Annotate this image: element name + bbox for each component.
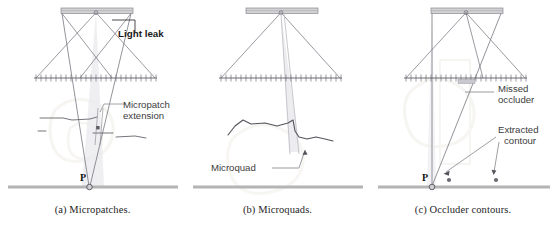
light-beam-c: [427, 13, 436, 186]
figure-container: Light leak Micropatch extension P (a) Mi…: [0, 0, 556, 229]
watermark-a: [50, 99, 113, 161]
label-light-leak: Light leak: [118, 28, 164, 39]
point-label-p-a: P: [80, 172, 86, 183]
missed-occluder-marker-c: [458, 80, 475, 84]
label-micropatch-extension-line1: Micropatch: [123, 99, 170, 110]
label-missed-occluder-line1: Missed: [498, 83, 528, 94]
label-missed-occluder-line2: occluder: [498, 94, 534, 105]
label-microquad: Microquad: [211, 162, 256, 173]
panel-micropatches: Light leak Micropatch extension P (a) Mi…: [0, 0, 185, 229]
receiver-point-a: [87, 184, 93, 190]
contour-rays-c: [432, 14, 501, 187]
label-extracted-contour-line1: Extracted: [498, 124, 539, 135]
panel-microquads: Microquad (b) Microquads.: [185, 0, 370, 229]
light-rays-b: [221, 13, 340, 78]
caption-panel-b: (b) Microquads.: [185, 204, 370, 215]
caption-panel-a: (a) Micropatches.: [0, 204, 185, 215]
receiver-point-c: [429, 184, 435, 190]
occluder-hatched-line-b: [219, 75, 342, 82]
light-rays-c: [406, 13, 525, 78]
leader-extracted-contour-2: [492, 142, 500, 175]
point-label-p-c: P: [422, 172, 428, 183]
caption-panel-c: (c) Occluder contours.: [370, 204, 556, 215]
panel-occluder-contours: Missed occluder Extracted contour P (c) …: [370, 0, 556, 229]
label-micropatch-extension-line2: extension: [123, 110, 164, 121]
micropatch-marker-a: [96, 126, 99, 129]
watermark-c: [404, 60, 474, 164]
contour-sample-dot-2: [494, 178, 498, 182]
label-extracted-contour-line2: contour: [504, 135, 536, 146]
contour-sample-dot-1: [447, 178, 451, 182]
